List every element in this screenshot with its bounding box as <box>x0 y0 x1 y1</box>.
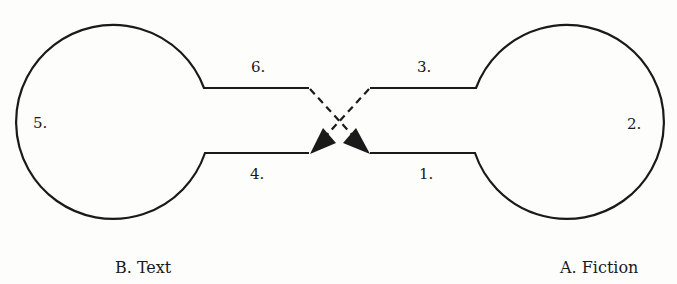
caption-fiction: A. Fiction <box>560 260 638 276</box>
arrowhead-right-icon <box>343 128 370 154</box>
dashed-arrow-to-text <box>323 89 369 139</box>
diagram-canvas <box>0 0 677 284</box>
label-3: 3. <box>417 60 431 75</box>
caption-text: B. Text <box>115 260 171 276</box>
label-5: 5. <box>33 116 47 131</box>
label-6: 6. <box>251 60 265 75</box>
left-bulb-outline <box>16 25 309 219</box>
right-bulb-outline <box>370 25 664 219</box>
label-4: 4. <box>250 167 264 182</box>
label-1: 1. <box>419 167 433 182</box>
label-2: 2. <box>627 117 641 132</box>
dashed-arrow-to-fiction <box>310 89 356 139</box>
arrowhead-left-icon <box>310 128 336 154</box>
